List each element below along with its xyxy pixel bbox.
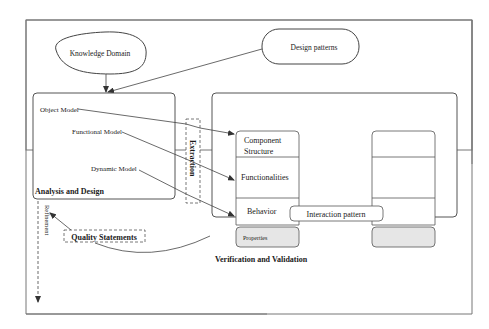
- refinement-label: Refinement: [44, 205, 51, 236]
- knowledge-domain-label: Knowledge Domain: [70, 49, 131, 58]
- knowledge-domain-node: Knowledge Domain: [56, 32, 147, 74]
- quality-to-analysis-arrow: [50, 213, 71, 230]
- dynamic-model-label: Dynamic Model: [91, 165, 137, 173]
- diagram-canvas: Knowledge Domain Design patterns Object …: [0, 0, 489, 329]
- analysis-design-box: Object Model Functional Model Dynamic Mo…: [33, 93, 175, 199]
- interaction-pattern-label: Interaction pattern: [307, 210, 366, 219]
- design-patterns-label: Design patterns: [291, 43, 338, 52]
- component-column-left: Component Structure Functionalities Beha…: [236, 131, 299, 247]
- quality-statements-label: Quality Statements: [71, 233, 137, 242]
- object-model-label: Object Model: [40, 106, 79, 114]
- behavior-label: Behavior: [247, 207, 277, 216]
- interaction-pattern-node: Interaction pattern: [290, 206, 383, 221]
- quality-statements-box: Quality Statements: [64, 230, 145, 242]
- component-structure-line1: Component: [244, 136, 282, 145]
- verification-validation-title: Verification and Validation: [215, 255, 308, 264]
- functionalities-label: Functionalities: [241, 173, 289, 182]
- extraction-label: Extraction: [188, 140, 197, 177]
- design-patterns-node: Design patterns: [262, 29, 359, 64]
- extraction-box: Extraction: [186, 119, 200, 203]
- component-column-right: [372, 131, 435, 247]
- properties-label: Properties: [243, 235, 268, 241]
- component-structure-line2: Structure: [244, 147, 274, 156]
- analysis-design-title: Analysis and Design: [35, 187, 104, 196]
- functional-model-label: Functional Model: [72, 128, 122, 136]
- properties-box-right: [372, 227, 435, 247]
